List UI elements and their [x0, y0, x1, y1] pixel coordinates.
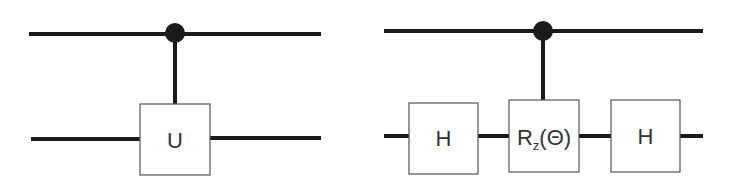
gate-h-1-label: H: [436, 126, 452, 151]
gate-rz-label: Rz(Θ): [517, 125, 571, 153]
gate-h-2-label: H: [638, 124, 654, 149]
left-circuit: U: [29, 23, 321, 175]
gate-u-label: U: [167, 128, 183, 153]
right-circuit: H Rz(Θ) H: [384, 21, 703, 174]
right-control-dot-icon: [533, 21, 553, 41]
left-control-dot-icon: [165, 23, 185, 43]
circuit-diagram: U H Rz(Θ) H: [0, 0, 733, 182]
